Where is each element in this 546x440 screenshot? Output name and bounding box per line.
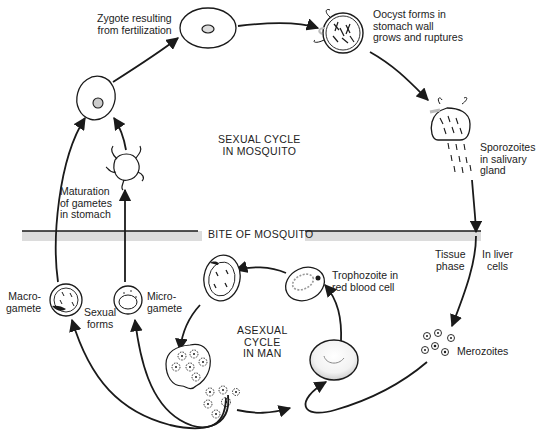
- fertilized-cell: [72, 72, 120, 124]
- label-merozoites: Merozoites: [457, 346, 508, 358]
- zygote-cell: [180, 8, 236, 48]
- label-zygote: Zygote resulting from fertilization: [97, 13, 172, 36]
- red-blood-cell: [310, 340, 358, 380]
- salivary-gland: [430, 97, 471, 173]
- schizont-cell: [200, 252, 243, 304]
- label-macrogamete: Macro- gamete: [6, 291, 41, 314]
- malaria-life-cycle-diagram: Zygote resulting from fertilization Oocy…: [0, 0, 546, 440]
- trophozoite-rbc: [280, 261, 330, 307]
- label-maturation: Maturation of gametes in stomach: [60, 186, 112, 221]
- label-sexual-forms: Sexual forms: [84, 307, 116, 330]
- label-trophozoite: Trophozoite in red blood cell: [332, 270, 398, 293]
- maturing-gamete: [106, 146, 143, 190]
- label-tissue-phase: Tissue phase: [435, 249, 466, 272]
- label-oocyst: Oocyst forms in stomach wall grows and r…: [373, 9, 463, 44]
- label-asexual-cycle: ASEXUAL CYCLE IN MAN: [237, 325, 288, 360]
- label-microgamete: Micro- gamete: [147, 291, 182, 314]
- label-sexual-cycle: SEXUAL CYCLE IN MOSQUITO: [218, 134, 301, 157]
- label-bite-of-mosquito: BITE OF MOSQUITO: [208, 229, 314, 241]
- oocyst: [314, 9, 363, 53]
- merozoites: [422, 330, 455, 356]
- microgamete: [114, 286, 142, 314]
- label-sporozoites: Sporozoites in salivary gland: [480, 142, 535, 177]
- label-liver-cells: In liver cells: [482, 249, 513, 272]
- macrogamete: [50, 284, 82, 316]
